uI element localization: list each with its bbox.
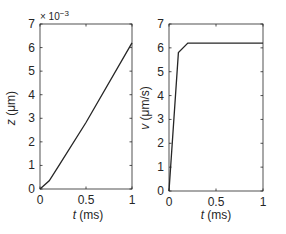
x-tick-label: 0 xyxy=(166,195,173,209)
x-tick-label: 1 xyxy=(129,193,136,207)
y-tick-label: 5 xyxy=(157,65,164,79)
right-x-axis-label: t (ms) xyxy=(201,208,232,222)
left-y-axis-label: z (μm) xyxy=(4,91,18,126)
series-line-v xyxy=(169,43,263,191)
y-tick-label: 7 xyxy=(157,17,164,31)
v-vs-t-plot: 0123456700.51 xyxy=(157,17,266,209)
y-tick-label: 3 xyxy=(157,112,164,126)
y-tick-label: 5 xyxy=(28,64,35,78)
y-tick-label: 0 xyxy=(157,184,164,198)
y-tick-label: 6 xyxy=(157,41,164,55)
x-tick-label: 0 xyxy=(37,193,44,207)
x-tick-label: 0.5 xyxy=(78,193,95,207)
y-tick-label: 3 xyxy=(28,111,35,125)
exponent-label: × 10−3 xyxy=(40,9,69,22)
right-y-axis-label: v (μm/s) xyxy=(138,86,152,130)
y-tick-label: 1 xyxy=(28,158,35,172)
left-x-axis-label: t (ms) xyxy=(73,208,104,222)
y-tick-label: 2 xyxy=(157,136,164,150)
series-line-z xyxy=(40,43,132,189)
y-tick-label: 4 xyxy=(157,89,164,103)
y-tick-label: 7 xyxy=(28,17,35,31)
axes-box xyxy=(40,24,132,189)
axes-box xyxy=(169,24,263,191)
figure: 0123456700.51 0123456700.51 t (ms) z (μm… xyxy=(0,0,286,234)
y-tick-label: 0 xyxy=(28,182,35,196)
y-tick-label: 2 xyxy=(28,135,35,149)
x-tick-label: 1 xyxy=(260,195,267,209)
y-tick-label: 1 xyxy=(157,160,164,174)
z-vs-t-plot: 0123456700.51 xyxy=(28,17,135,207)
y-tick-label: 4 xyxy=(28,88,35,102)
y-tick-label: 6 xyxy=(28,41,35,55)
x-tick-label: 0.5 xyxy=(208,195,225,209)
